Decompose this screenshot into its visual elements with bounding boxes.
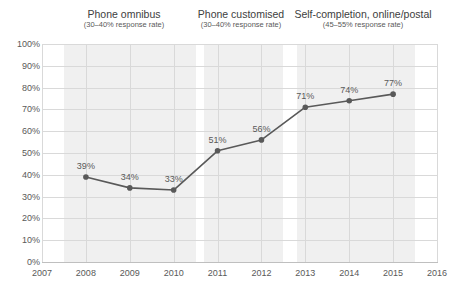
data-point-label: 34% (121, 172, 139, 182)
data-point-label: 51% (209, 135, 227, 145)
data-point-label: 56% (252, 124, 270, 134)
data-point-marker (303, 104, 309, 110)
data-point-marker (171, 187, 177, 193)
data-point-marker (215, 148, 221, 154)
data-point-label: 74% (340, 85, 358, 95)
data-point-label: 71% (296, 91, 314, 101)
data-point-marker (83, 174, 89, 180)
data-point-label: 33% (165, 174, 183, 184)
data-point-marker (127, 185, 133, 191)
data-point-marker (259, 137, 265, 143)
data-point-label: 77% (384, 78, 402, 88)
data-point-label: 39% (77, 161, 95, 171)
data-point-marker (346, 98, 352, 104)
data-point-marker (390, 91, 396, 97)
